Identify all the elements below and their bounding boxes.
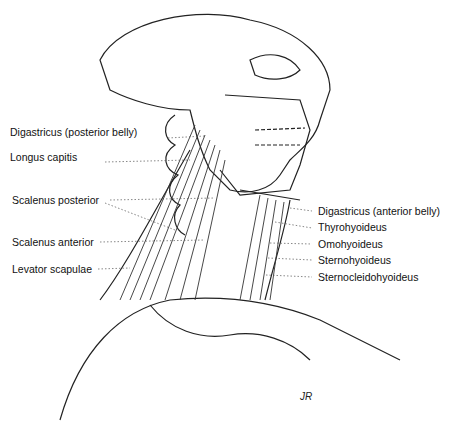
neck-illustration: JR (0, 0, 450, 436)
anatomy-figure: JR Digastricus (posterior belly) Longus … (0, 0, 450, 436)
label-sternohyoideus: Sternohyoideus (318, 254, 391, 266)
label-digastricus-posterior: Digastricus (posterior belly) (10, 126, 137, 138)
label-scalenus-posterior: Scalenus posterior (12, 194, 99, 206)
skull-outline (100, 14, 330, 192)
label-scalenus-anterior: Scalenus anterior (12, 236, 94, 248)
label-sternocleidohyoideus: Sternocleidohyoideus (318, 271, 418, 283)
label-levator-scapulae: Levator scapulae (12, 263, 92, 275)
teeth (255, 128, 305, 145)
label-thyrohyoideus: Thyrohyoideus (318, 221, 387, 233)
label-omohyoideus: Omohyoideus (318, 238, 383, 250)
clavicle (60, 298, 400, 420)
scapula (150, 305, 310, 360)
orbit (250, 55, 300, 79)
artist-signature: JR (299, 391, 312, 402)
label-digastricus-anterior: Digastricus (anterior belly) (318, 205, 440, 217)
label-longus-capitis: Longus capitis (10, 151, 77, 163)
